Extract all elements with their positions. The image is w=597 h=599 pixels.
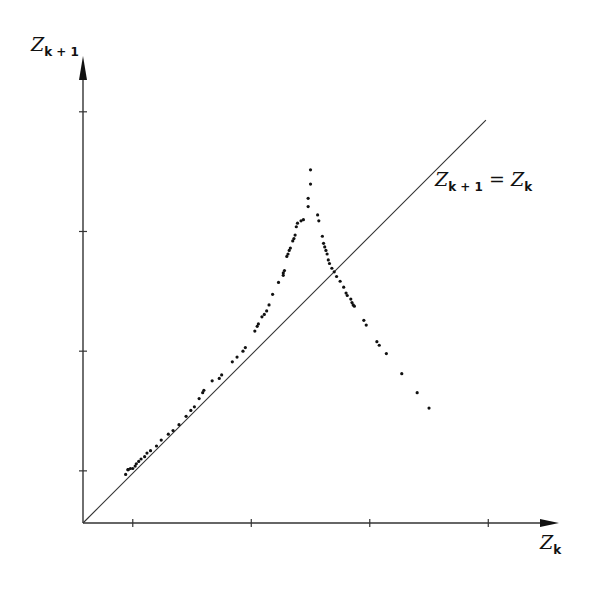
data-point [323, 245, 326, 248]
data-point [342, 286, 345, 289]
y-axis-label-sub: k + 1 [44, 45, 79, 59]
data-point [263, 313, 266, 316]
data-point [330, 267, 333, 270]
data-point [335, 275, 338, 278]
data-point [260, 315, 263, 318]
data-point [385, 352, 388, 355]
data-point [265, 309, 268, 312]
data-point [184, 415, 187, 418]
data-point [143, 455, 146, 458]
identity-equals: = [483, 168, 511, 190]
data-point [365, 324, 368, 327]
data-point [328, 262, 331, 265]
data-point [244, 346, 247, 349]
data-point [155, 444, 158, 447]
identity-line-path [83, 120, 486, 523]
data-point [177, 423, 180, 426]
data-point [267, 303, 270, 306]
data-point [427, 406, 430, 409]
data-point [198, 397, 201, 400]
data-point [211, 379, 214, 382]
data-point [400, 372, 403, 375]
data-point [302, 218, 305, 221]
data-point [257, 322, 260, 325]
data-point [202, 389, 205, 392]
data-point [307, 205, 310, 208]
data-point [362, 319, 365, 322]
y-axis-label: Zk + 1 [31, 33, 79, 59]
data-point [317, 219, 320, 222]
data-point [167, 433, 170, 436]
x-axis-label: Zk [540, 531, 561, 557]
data-points [124, 168, 431, 476]
data-point [296, 222, 299, 225]
data-point [295, 225, 298, 228]
data-point [271, 293, 274, 296]
data-point [218, 377, 221, 380]
data-point [286, 252, 289, 255]
data-point [324, 249, 327, 252]
y-axis-arrow-icon [79, 56, 87, 80]
identity-lhs-sub: k + 1 [448, 180, 483, 194]
data-point [292, 237, 295, 240]
data-point [189, 409, 192, 412]
x-axis-label-base: Z [540, 531, 553, 553]
data-point [294, 233, 297, 236]
data-point [339, 280, 342, 283]
data-point [416, 391, 419, 394]
data-point [289, 246, 292, 249]
data-point [316, 213, 319, 216]
data-point [135, 462, 138, 465]
data-point [333, 270, 336, 273]
data-point [137, 460, 140, 463]
data-point [378, 344, 381, 347]
data-point [145, 451, 148, 454]
data-point [277, 281, 280, 284]
x-axis-label-sub: k [553, 543, 561, 557]
data-point [149, 449, 152, 452]
identity-lhs-base: Z [435, 168, 448, 190]
data-point [253, 329, 256, 332]
x-axis-arrow-icon [540, 519, 559, 527]
data-point [349, 297, 352, 300]
data-point [321, 235, 324, 238]
identity-rhs-base: Z [511, 168, 524, 190]
y-axis-label-base: Z [31, 33, 44, 55]
data-point [220, 373, 223, 376]
data-point [283, 269, 286, 272]
data-point [353, 305, 356, 308]
data-point [322, 242, 325, 245]
data-point [193, 405, 196, 408]
data-point [171, 429, 174, 432]
data-point [309, 168, 312, 171]
identity-line-label: Zk + 1 = Zk [435, 168, 532, 194]
data-point [124, 473, 127, 476]
data-point [375, 340, 378, 343]
identity-line [83, 120, 486, 523]
data-point [326, 252, 329, 255]
data-point [235, 356, 238, 359]
identity-rhs-sub: k [524, 180, 532, 194]
data-point [241, 350, 244, 353]
data-point [160, 438, 163, 441]
data-point [307, 197, 310, 200]
axes [79, 56, 559, 527]
data-point [309, 182, 312, 185]
data-point [327, 258, 330, 261]
return-map-chart [0, 0, 597, 599]
data-point [231, 360, 234, 363]
data-point [131, 467, 134, 470]
data-point [346, 294, 349, 297]
data-point [139, 457, 142, 460]
